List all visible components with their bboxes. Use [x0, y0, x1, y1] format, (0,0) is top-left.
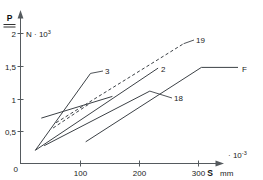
y-axis-unit-exponent: 3	[48, 29, 51, 35]
y-tick-label-1p5: 1,5	[5, 63, 17, 72]
y-axis-unit: N · 103	[26, 29, 51, 39]
x-tick-label-100: 100	[74, 169, 88, 178]
y-tick-label-2: 2	[12, 30, 17, 39]
x-axis-multiplier-exponent: -3	[242, 150, 247, 156]
series-label-19: 19	[196, 36, 205, 45]
series-label-3: 3	[105, 67, 110, 76]
leader-line-3	[91, 71, 104, 73]
x-axis-label-S: S	[207, 168, 213, 178]
leader-line-18	[150, 91, 172, 98]
x-axis-multiplier-text: · 10	[228, 151, 242, 160]
y-tick-label-1: 1	[12, 96, 17, 105]
x-axis-multiplier: · 10-3	[228, 150, 247, 160]
series-line-shallow-unlabeled	[41, 96, 112, 118]
chart-canvas: 2 1,5 1 0,5 0 100 200 300 P N · 103 S mm…	[0, 0, 263, 180]
y-tick-label-0p5: 0,5	[5, 128, 17, 137]
chart-root: 2 1,5 1 0,5 0 100 200 300 P N · 103 S mm…	[0, 0, 263, 180]
y-axis-arrowhead	[18, 10, 24, 19]
y-axis-label-P: P	[7, 13, 13, 23]
series-labels-group: 19 3 2 F 18	[105, 36, 247, 103]
series-line-18	[44, 91, 150, 146]
y-tick-label-0: 0	[14, 165, 19, 174]
series-label-F: F	[242, 65, 247, 74]
x-axis-unit: mm	[220, 169, 234, 178]
leader-line-19	[184, 40, 194, 44]
series-line-2	[35, 68, 158, 150]
y-axis-unit-text: N · 10	[26, 30, 48, 39]
x-axis-arrowhead	[216, 161, 225, 167]
series-line-19	[56, 44, 184, 123]
series-label-2: 2	[161, 65, 166, 74]
x-tick-label-300: 300	[192, 169, 206, 178]
x-tick-label-200: 200	[133, 169, 147, 178]
series-label-18: 18	[174, 94, 183, 103]
